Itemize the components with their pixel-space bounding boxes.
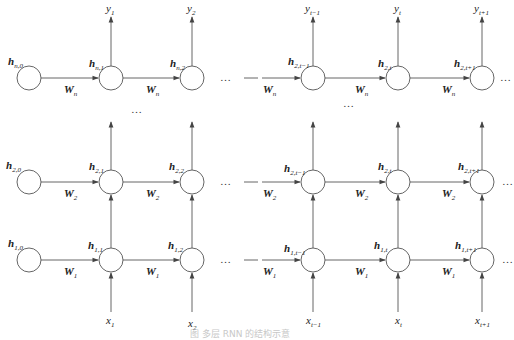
label-top-t-1: h2,t−1	[288, 56, 310, 70]
label-xt-1: xt−1	[306, 315, 321, 329]
weight-mid-3: W2	[263, 188, 276, 202]
ellipsis-top-right: …	[500, 72, 510, 83]
label-h10: h1,0	[8, 238, 23, 252]
weight-bot-2: W1	[146, 266, 159, 280]
weight-mid-1: W2	[64, 188, 77, 202]
label-hn1: hn,1	[89, 58, 104, 72]
label-hn2: hn,2	[170, 58, 185, 72]
ellipsis-bot-right: …	[502, 254, 512, 265]
ellipsis-bot-left: …	[220, 254, 230, 265]
ellipsis-between-right: …	[343, 98, 353, 109]
weight-mid-5: W2	[442, 188, 455, 202]
label-h20: h2,0	[6, 160, 21, 174]
weight-mid-4: W2	[355, 188, 368, 202]
label-top-t1: h2,t+1	[454, 58, 476, 72]
label-x1: x1	[106, 315, 114, 329]
label-h21: h2,1	[89, 161, 104, 175]
label-h12: h1,2	[168, 240, 183, 254]
ellipsis-mid-left: …	[220, 176, 230, 187]
label-h2t1: h2,t+1	[458, 161, 480, 175]
label-h22: h2,2	[169, 161, 184, 175]
label-h1t: h1,t	[374, 240, 387, 254]
label-y1: y1	[106, 3, 114, 17]
weight-bot-3: W1	[263, 266, 276, 280]
label-h1t-1: h1,t−1	[284, 243, 306, 257]
weight-top-3: Wn	[263, 84, 276, 98]
weight-bot-4: W1	[355, 266, 368, 280]
node-h12	[180, 248, 204, 272]
weight-top-5: Wn	[442, 84, 455, 98]
label-h2t-1: h2,t−1	[284, 163, 306, 177]
ellipsis-between-left: …	[131, 104, 141, 115]
label-h1t1: h1,t+1	[455, 240, 477, 254]
weight-mid-2: W2	[146, 188, 159, 202]
label-top-t: h2,t	[378, 58, 391, 72]
label-h2t: h2,t	[378, 161, 391, 175]
label-hn0: hn,0	[8, 56, 23, 70]
label-h11: h1,1	[88, 240, 103, 254]
node-h1t	[386, 248, 410, 272]
weight-bot-1: W1	[64, 266, 77, 280]
weight-top-4: Wn	[355, 84, 368, 98]
label-xt: xt	[395, 315, 402, 329]
weight-top-1: Wn	[64, 84, 77, 98]
weight-top-2: Wn	[146, 84, 159, 98]
label-yt1: yt+1	[474, 3, 489, 17]
label-yt-1: yt−1	[305, 3, 320, 17]
ellipsis-mid-right: …	[502, 176, 512, 187]
label-xt1: xt+1	[475, 315, 490, 329]
label-yt: yt	[394, 3, 401, 17]
weight-bot-5: W1	[442, 266, 455, 280]
figure-caption: 图 多层 RNN 的结构示意	[190, 327, 290, 340]
ellipsis-top-left: …	[220, 72, 230, 83]
label-y2: y2	[187, 3, 195, 17]
